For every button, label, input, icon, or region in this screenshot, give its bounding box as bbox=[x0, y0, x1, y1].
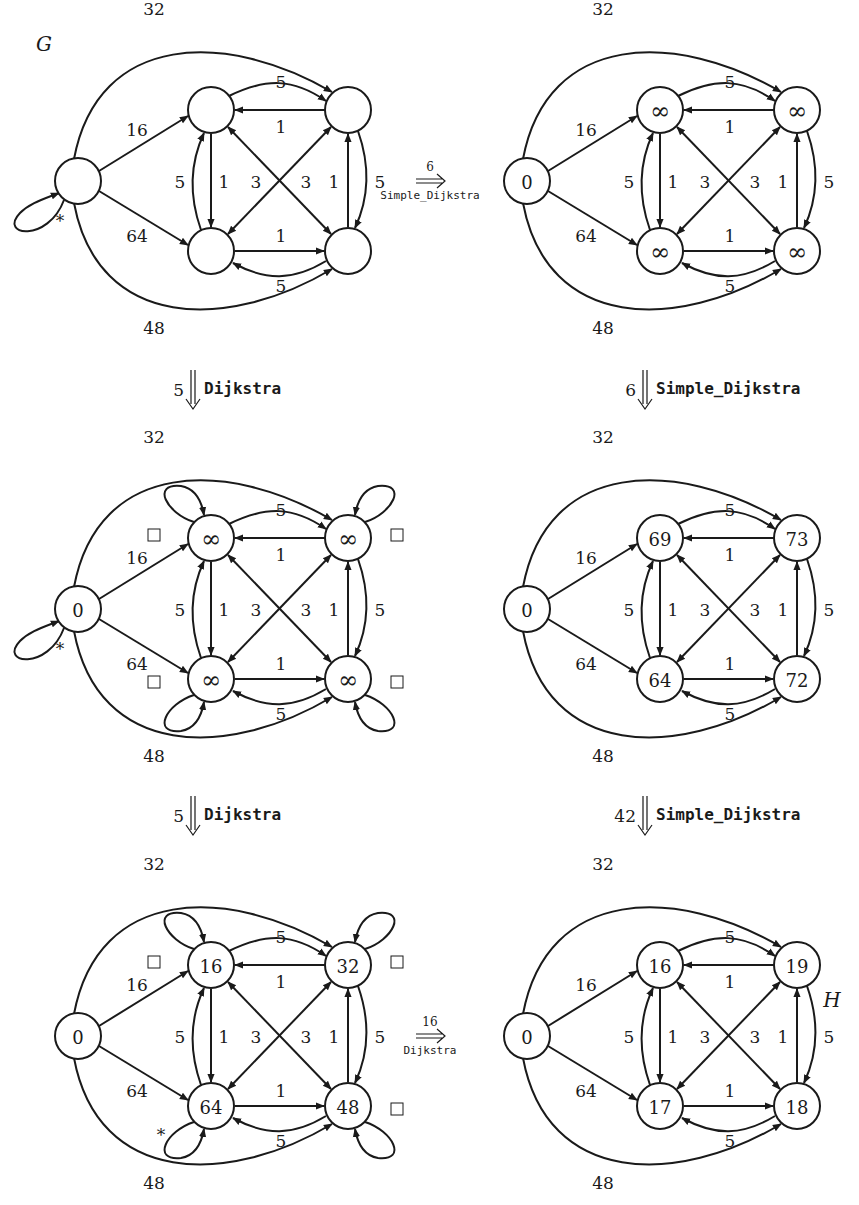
transition-algorithm: Dijkstra bbox=[204, 379, 281, 398]
graph-label-G: G bbox=[36, 32, 52, 56]
double-arrow-down-icon bbox=[638, 796, 652, 835]
node-distance-label: ∞ bbox=[650, 238, 670, 266]
star-mark: * bbox=[56, 639, 65, 659]
edge-weight-a-c: 1 bbox=[219, 600, 230, 620]
transition-count: 5 bbox=[173, 806, 184, 826]
edge-weight-c-a: 5 bbox=[175, 600, 186, 620]
edge-b-d bbox=[804, 986, 816, 1083]
node-circle bbox=[188, 87, 234, 133]
node-c: 64 bbox=[188, 1083, 234, 1129]
edge-d-c bbox=[233, 261, 326, 276]
double-arrow-right-icon bbox=[416, 1029, 445, 1043]
node-b: 73 bbox=[774, 515, 820, 561]
edge-weight-c-b: 3 bbox=[301, 600, 312, 620]
edge-weight-s-c: 64 bbox=[126, 1081, 148, 1101]
node-s: 0 bbox=[504, 158, 550, 204]
transition-t1: 6Simple_Dijkstra bbox=[380, 160, 479, 202]
node-b bbox=[325, 87, 371, 133]
transition-algorithm: Simple_Dijkstra bbox=[380, 189, 479, 202]
edge-weight-c-a: 5 bbox=[624, 1027, 635, 1047]
node-b: ∞ bbox=[325, 515, 371, 561]
edge-c-a bbox=[641, 133, 653, 230]
self-loop-a bbox=[165, 486, 204, 522]
self-loop-d bbox=[355, 695, 394, 731]
node-circle bbox=[325, 228, 371, 274]
double-arrow-right-icon bbox=[416, 174, 445, 188]
star-mark: * bbox=[157, 1125, 166, 1145]
edge-weight-s-c: 64 bbox=[126, 226, 148, 246]
node-d bbox=[325, 228, 371, 274]
edge-weight-d-b: 1 bbox=[778, 600, 789, 620]
self-loop-b bbox=[355, 486, 394, 522]
node-a: 16 bbox=[188, 942, 234, 988]
edge-weight-a-b: 5 bbox=[725, 72, 736, 92]
node-distance-label: ∞ bbox=[201, 525, 221, 553]
node-a: 69 bbox=[637, 515, 683, 561]
edge-weight-a-b: 5 bbox=[276, 500, 287, 520]
node-distance-label: 69 bbox=[649, 529, 672, 550]
edge-weight-b-a: 1 bbox=[276, 545, 287, 565]
node-d: 48 bbox=[325, 1083, 371, 1129]
edge-weight-c-d: 1 bbox=[725, 1081, 736, 1101]
edge-weight-s-b: 32 bbox=[592, 0, 614, 19]
graph-g3: 324816645115511533*0∞∞∞∞ bbox=[14, 427, 403, 766]
edge-weight-b-d: 5 bbox=[824, 172, 835, 192]
edge-weight-d-b: 1 bbox=[329, 600, 340, 620]
edge-weight-c-d: 1 bbox=[725, 226, 736, 246]
node-c: ∞ bbox=[188, 656, 234, 702]
node-distance-label: 64 bbox=[200, 1097, 223, 1118]
transition-t3: 6Simple_Dijkstra bbox=[625, 370, 800, 409]
edge-weight-s-d: 48 bbox=[143, 746, 165, 766]
edge-weight-s-d: 48 bbox=[143, 318, 165, 338]
box-mark-d bbox=[391, 1103, 403, 1115]
edge-weight-a-c: 1 bbox=[219, 1027, 230, 1047]
edge-c-a bbox=[641, 988, 653, 1085]
double-arrow-down-icon bbox=[186, 796, 200, 835]
node-distance-label: ∞ bbox=[650, 97, 670, 125]
node-circle bbox=[55, 158, 101, 204]
node-d: ∞ bbox=[774, 228, 820, 274]
node-circle bbox=[325, 87, 371, 133]
box-mark-b bbox=[391, 529, 403, 541]
node-distance-label: 0 bbox=[72, 1027, 83, 1048]
transition-algorithm: Dijkstra bbox=[404, 1044, 457, 1057]
transition-t4: 5Dijkstra bbox=[173, 796, 281, 835]
node-a: ∞ bbox=[637, 87, 683, 133]
node-c: 64 bbox=[637, 656, 683, 702]
edge-d-c bbox=[682, 689, 775, 704]
double-arrow-down-icon bbox=[186, 370, 200, 409]
node-b: ∞ bbox=[774, 87, 820, 133]
node-c: ∞ bbox=[637, 228, 683, 274]
box-mark-c bbox=[148, 676, 160, 688]
node-s: 0 bbox=[55, 586, 101, 632]
box-mark-a bbox=[148, 956, 160, 968]
edge-weight-b-a: 1 bbox=[276, 117, 287, 137]
node-a bbox=[188, 87, 234, 133]
graph-g1: 324816645115511533* bbox=[14, 0, 385, 338]
edge-weight-b-d: 5 bbox=[375, 1027, 386, 1047]
edge-weight-a-c: 1 bbox=[668, 172, 679, 192]
edge-weight-s-a: 16 bbox=[126, 975, 148, 995]
edge-c-a bbox=[192, 561, 204, 658]
edge-weight-a-b: 5 bbox=[276, 72, 287, 92]
edge-d-c bbox=[233, 689, 326, 704]
edge-weight-s-b: 32 bbox=[592, 854, 614, 874]
edge-c-a bbox=[641, 561, 653, 658]
node-distance-label: 0 bbox=[72, 600, 83, 621]
node-distance-label: 72 bbox=[786, 670, 809, 691]
node-distance-label: 16 bbox=[200, 956, 223, 977]
graph-label-H: H bbox=[822, 988, 841, 1012]
edge-weight-d-c: 5 bbox=[725, 1131, 736, 1151]
transition-count: 6 bbox=[426, 160, 434, 174]
edge-weight-a-c: 1 bbox=[668, 600, 679, 620]
edge-weight-s-b: 32 bbox=[143, 0, 165, 19]
edge-weight-s-b: 32 bbox=[143, 427, 165, 447]
edge-weight-c-b: 3 bbox=[750, 600, 761, 620]
transition-t2: 5Dijkstra bbox=[173, 370, 281, 409]
edge-weight-c-a: 5 bbox=[175, 1027, 186, 1047]
transition-count: 5 bbox=[173, 380, 184, 400]
edge-b-d bbox=[804, 131, 816, 228]
node-distance-label: ∞ bbox=[338, 666, 358, 694]
node-circle bbox=[188, 228, 234, 274]
node-s: 0 bbox=[504, 1013, 550, 1059]
